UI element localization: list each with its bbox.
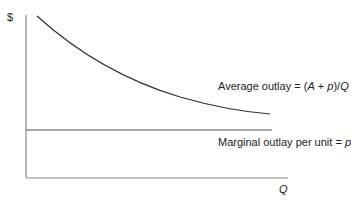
y-axis-label: $ [7, 11, 13, 23]
average-outlay-label: Average outlay = (A + p)/Q [218, 80, 349, 92]
average-outlay-curve [37, 16, 270, 114]
x-axis-label: Q [279, 183, 288, 195]
chart-canvas [0, 0, 351, 202]
marginal-outlay-label: Marginal outlay per unit = p [218, 136, 351, 148]
